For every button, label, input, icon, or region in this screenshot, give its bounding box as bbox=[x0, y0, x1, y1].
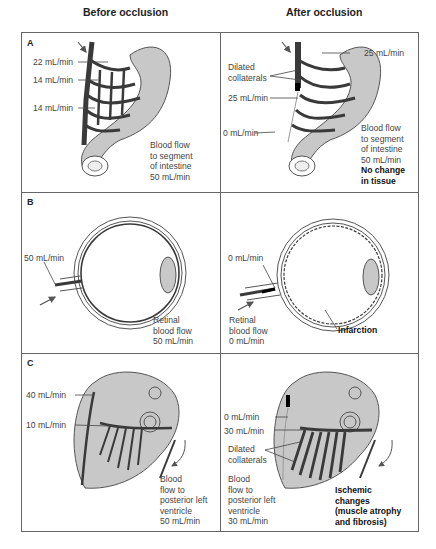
c-after-flow-2: 30 mL/min bbox=[224, 426, 264, 437]
a-before-flow-1: 22 mL/min bbox=[33, 57, 73, 68]
c-before-flow-1: 40 mL/min bbox=[26, 390, 66, 401]
a-before-flow-3: 14 mL/min bbox=[33, 103, 73, 114]
panel-label-c: C bbox=[27, 358, 34, 368]
c-before-caption: Blood flow to posterior left ventricle 5… bbox=[160, 474, 207, 527]
b-after-caption: Retinal blood flow 0 mL/min bbox=[229, 315, 268, 347]
b-after-outcome: Infarction bbox=[338, 325, 377, 336]
b-before-flow: 50 mL/min bbox=[24, 253, 64, 264]
panel-label-b: B bbox=[27, 197, 34, 207]
a-before-caption: Blood flow to segment of intestine 50 mL… bbox=[150, 140, 193, 182]
panel-label-a: A bbox=[27, 38, 34, 48]
eye-before-illustration bbox=[40, 217, 186, 329]
a-after-low-flow: 0 mL/min bbox=[223, 128, 258, 139]
b-before-caption: Retinal blood flow 50 mL/min bbox=[153, 315, 193, 347]
a-before-flow-2: 14 mL/min bbox=[33, 75, 73, 86]
c-after-collaterals: Dilated collaterals bbox=[228, 444, 267, 465]
heart-before-illustration bbox=[74, 372, 185, 488]
a-after-caption: Blood flow to segment of intestine 50 mL… bbox=[361, 123, 404, 165]
a-after-top-flow: 25 mL/min bbox=[364, 48, 404, 59]
a-after-outcome: No change in tissue bbox=[361, 165, 405, 186]
c-after-flow-1: 0 mL/min bbox=[224, 412, 259, 423]
a-after-mid-flow: 25 mL/min bbox=[228, 93, 268, 104]
c-before-flow-2: 10 mL/min bbox=[26, 420, 66, 431]
c-after-caption: Blood flow to posterior left ventricle 3… bbox=[228, 474, 275, 527]
a-after-collaterals: Dilated collaterals bbox=[228, 62, 267, 83]
c-after-outcome: Ischemic changes (muscle atrophy and fib… bbox=[335, 485, 401, 527]
b-after-flow: 0 mL/min bbox=[228, 253, 263, 264]
